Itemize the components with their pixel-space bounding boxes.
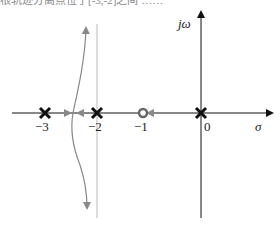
root-locus-plot bbox=[0, 0, 280, 230]
tick-label-neg1: −1 bbox=[134, 119, 148, 135]
tick-label-zero: 0 bbox=[204, 119, 211, 135]
zero-marker bbox=[139, 109, 147, 117]
locus-branch-lower bbox=[72, 113, 87, 208]
tick-label-neg2: −2 bbox=[88, 119, 102, 135]
locus-branch-upper bbox=[73, 28, 86, 113]
tick-label-neg3: −3 bbox=[35, 119, 49, 135]
real-axis-label: σ bbox=[255, 119, 261, 135]
imag-axis-label: jω bbox=[178, 16, 191, 32]
